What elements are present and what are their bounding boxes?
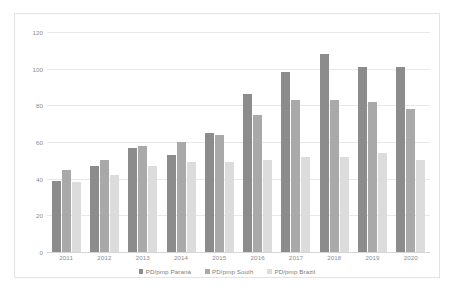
- bar[interactable]: [225, 162, 234, 252]
- x-axis-tick-label: 2012: [85, 254, 123, 261]
- bar[interactable]: [320, 54, 329, 252]
- x-axis-tick-label: 2019: [353, 254, 391, 261]
- bar[interactable]: [90, 166, 99, 252]
- y-axis-tick-label: 100: [32, 65, 43, 72]
- bar[interactable]: [416, 160, 425, 252]
- bar[interactable]: [62, 170, 71, 253]
- bar[interactable]: [368, 102, 377, 252]
- bar[interactable]: [187, 162, 196, 252]
- x-axis-tick-labels: 2011201220132014201520162017201820192020: [47, 254, 430, 261]
- x-axis-tick-label: 2016: [238, 254, 276, 261]
- y-axis-tick-label: 60: [36, 139, 43, 146]
- bar-group-2013: [124, 32, 162, 252]
- bar[interactable]: [301, 157, 310, 252]
- legend-label: PD/pmp South: [212, 268, 253, 275]
- bar[interactable]: [138, 146, 147, 252]
- legend-item[interactable]: PD/pmp Paraná: [139, 268, 191, 275]
- legend-swatch-icon: [205, 269, 210, 274]
- bar[interactable]: [406, 109, 415, 252]
- y-axis-tick-label: 0: [39, 249, 43, 256]
- legend-item[interactable]: PD/pmp Brazil: [267, 268, 315, 275]
- bar-group-2019: [353, 32, 391, 252]
- legend-swatch-icon: [267, 269, 272, 274]
- bar-group-2017: [277, 32, 315, 252]
- legend-swatch-icon: [139, 269, 144, 274]
- bar-group-2011: [47, 32, 85, 252]
- y-axis-tick-label: 80: [36, 102, 43, 109]
- bar[interactable]: [148, 166, 157, 252]
- gridline-0: [47, 252, 430, 253]
- x-axis-tick-label: 2013: [124, 254, 162, 261]
- y-axis-tick-label: 120: [32, 29, 43, 36]
- x-axis-tick-label: 2015: [200, 254, 238, 261]
- bar-group-2014: [162, 32, 200, 252]
- bars-layer: [47, 32, 430, 252]
- bar[interactable]: [378, 153, 387, 252]
- legend-label: PD/pmp Brazil: [274, 268, 315, 275]
- y-axis-tick-label: 20: [36, 212, 43, 219]
- chart-legend: PD/pmp ParanáPD/pmp SouthPD/pmp Brazil: [15, 268, 439, 275]
- y-axis-tick-label: 40: [36, 175, 43, 182]
- bar[interactable]: [291, 100, 300, 252]
- bar-group-2020: [392, 32, 430, 252]
- legend-label: PD/pmp Paraná: [146, 268, 191, 275]
- bar[interactable]: [72, 182, 81, 252]
- x-axis-tick-label: 2017: [277, 254, 315, 261]
- bar[interactable]: [340, 157, 349, 252]
- bar-group-2015: [200, 32, 238, 252]
- x-axis-tick-label: 2011: [47, 254, 85, 261]
- x-axis-tick-label: 2020: [392, 254, 430, 261]
- bar[interactable]: [243, 94, 252, 252]
- bar[interactable]: [52, 181, 61, 253]
- bar[interactable]: [281, 72, 290, 252]
- bar[interactable]: [110, 175, 119, 252]
- bar[interactable]: [253, 115, 262, 253]
- bar-group-2016: [238, 32, 276, 252]
- bar[interactable]: [177, 142, 186, 252]
- plot-area: 020406080100120: [47, 32, 430, 252]
- x-axis-tick-label: 2014: [162, 254, 200, 261]
- bar[interactable]: [215, 135, 224, 252]
- bar[interactable]: [100, 160, 109, 252]
- bar[interactable]: [128, 148, 137, 253]
- bar-group-2018: [315, 32, 353, 252]
- bar[interactable]: [263, 160, 272, 252]
- bar-group-2012: [85, 32, 123, 252]
- chart-container: 020406080100120 201120122013201420152016…: [14, 13, 440, 278]
- bar[interactable]: [205, 133, 214, 252]
- bar[interactable]: [330, 100, 339, 252]
- bar[interactable]: [358, 67, 367, 252]
- legend-item[interactable]: PD/pmp South: [205, 268, 253, 275]
- x-axis-tick-label: 2018: [315, 254, 353, 261]
- bar[interactable]: [396, 67, 405, 252]
- bar[interactable]: [167, 155, 176, 252]
